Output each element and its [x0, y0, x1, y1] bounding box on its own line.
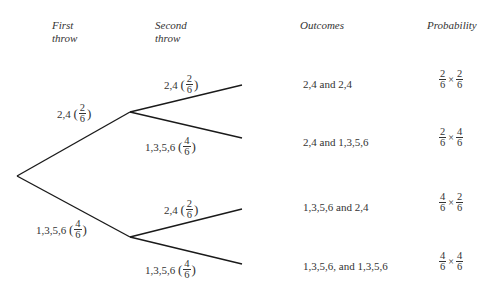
header-second-throw: Second throw	[155, 19, 187, 45]
fraction: 26	[186, 74, 193, 95]
outcome-text: 2,4 and 2,4	[303, 78, 352, 90]
outcome-text: 1,3,5,6, and 1,3,5,6	[303, 260, 388, 272]
header-probability: Probability	[427, 19, 477, 32]
second-branch-label: 1,3,5,6 (46)	[145, 259, 196, 280]
outcome-text: 1,3,5,6 and 2,4	[303, 201, 368, 213]
probability-product: 46 × 46	[438, 251, 464, 272]
fraction: 26	[79, 103, 86, 124]
probability-product: 26 × 46	[438, 127, 464, 148]
first-branch-label: 2,4 (26)	[57, 103, 91, 124]
first-branch-label: 1,3,5,6 (46)	[36, 219, 87, 240]
probability-product: 46 × 26	[438, 192, 464, 213]
second-branch-label: 2,4 (26)	[164, 74, 198, 95]
fraction: 46	[183, 259, 190, 280]
outcome-text: 2,4 and 1,3,5,6	[303, 136, 368, 148]
header-outcomes: Outcomes	[300, 19, 344, 32]
fraction: 46	[74, 219, 81, 240]
header-first-throw: First throw	[52, 19, 77, 45]
second-branch-label: 1,3,5,6 (46)	[145, 136, 196, 157]
probability-product: 26 × 26	[438, 69, 464, 90]
fraction: 46	[183, 136, 190, 157]
fraction: 26	[186, 199, 193, 220]
second-branch-label: 2,4 (26)	[164, 199, 198, 220]
